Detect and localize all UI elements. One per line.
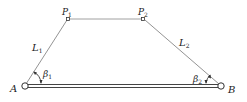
link-l2 [145,20,219,84]
label-beta1: β1 [42,69,52,80]
base-bar [28,85,218,88]
label-l1: L1 [31,42,42,54]
pivot-a [22,83,28,89]
label-p1: P1 [61,7,72,18]
linkage-diagram: A B P1 P2 L1 L2 β1 β2 [0,0,247,102]
angle-beta1 [33,72,42,85]
label-l2: L2 [178,37,190,49]
label-b: B [227,84,235,95]
label-p2: P2 [137,7,148,18]
pivot-b [218,83,224,89]
angle-beta2 [205,75,212,85]
label-a: A [9,83,17,94]
label-beta2: β2 [192,74,202,85]
